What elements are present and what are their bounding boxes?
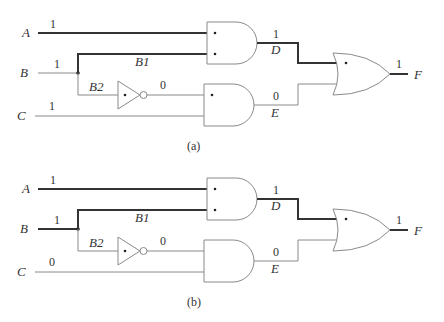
inverter-output-value: 0 (160, 234, 166, 248)
input-b-value: 1 (54, 213, 60, 227)
input-a-value: 1 (50, 17, 56, 31)
e-label: E (270, 105, 279, 120)
input-a-label: A (21, 25, 30, 40)
wire-e (254, 240, 337, 261)
input-c-value: 1 (49, 99, 55, 113)
not-gate (118, 237, 140, 265)
caption-b: (b) (187, 295, 201, 309)
not-gate-marker-dot (124, 94, 127, 97)
not-gate (118, 81, 140, 109)
circuit-b: A 1 B 1 B1 B2 0 C 0 1 D 0 E 1 F (b) (17, 173, 423, 309)
and-gate-1 (207, 178, 257, 220)
caption-a: (a) (187, 139, 200, 153)
or-marker-dot (345, 218, 348, 221)
input-c-label: C (17, 264, 26, 279)
e-value: 0 (273, 89, 279, 103)
d-value: 1 (273, 27, 279, 41)
f-label: F (413, 223, 423, 238)
d-value: 1 (273, 183, 279, 197)
input-c-value: 0 (49, 255, 55, 269)
wire-d (257, 199, 337, 219)
f-value: 1 (396, 57, 402, 71)
circuit-a: A 1 B 1 B1 B2 0 C 1 1 D 0 E (17, 17, 423, 153)
e-value: 0 (273, 245, 279, 259)
input-b-label: B (20, 65, 28, 80)
wire-e (254, 84, 337, 105)
inverter-bubble-icon (140, 92, 147, 99)
inverter-bubble-icon (140, 248, 147, 255)
and1-marker-dot (214, 209, 217, 212)
and-gate-2 (204, 240, 254, 282)
and1-marker-dot (214, 53, 217, 56)
d-label: D (270, 198, 281, 213)
and1-marker-dot (214, 32, 217, 35)
input-c-label: C (17, 108, 26, 123)
logic-circuit-figure: A 1 B 1 B1 B2 0 C 1 1 D 0 E (0, 0, 444, 322)
or-marker-dot (345, 62, 348, 65)
and1-marker-dot (214, 188, 217, 191)
or-gate (333, 209, 390, 251)
or-gate (333, 53, 390, 95)
f-label: F (413, 67, 423, 82)
branch-b2-label: B2 (89, 235, 104, 250)
branch-b1-label: B1 (135, 54, 149, 69)
not-gate-marker-dot (124, 250, 127, 253)
input-a-value: 1 (50, 173, 56, 187)
input-b-label: B (20, 221, 28, 236)
and-gate-1 (207, 22, 257, 64)
branch-b1-label: B1 (135, 210, 149, 225)
e-label: E (270, 261, 279, 276)
branch-b2-label: B2 (89, 79, 104, 94)
input-b-value: 1 (54, 57, 60, 71)
inverter-output-value: 0 (160, 78, 166, 92)
f-value: 1 (396, 213, 402, 227)
d-label: D (270, 42, 281, 57)
wire-d (257, 43, 337, 63)
and2-marker-dot (211, 94, 214, 97)
input-a-label: A (21, 181, 30, 196)
and-gate-2 (204, 84, 254, 126)
